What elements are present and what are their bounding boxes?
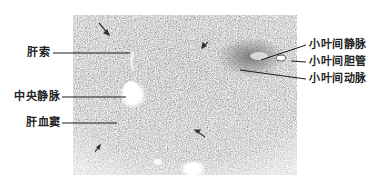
label-interlobular-vein: 小叶间静脉 bbox=[309, 39, 367, 51]
label-interlobular-bile-duct: 小叶间胆管 bbox=[309, 56, 367, 68]
label-interlobular-artery: 小叶间动脉 bbox=[309, 73, 367, 85]
label-central-vein: 中央静脉 bbox=[14, 91, 60, 103]
tissue-texture bbox=[73, 15, 297, 175]
label-hepatic-sinusoid: 肝血窦 bbox=[26, 117, 61, 129]
liver-histology-figure: 肝索 中央静脉 肝血窦 小叶间静脉 小叶间胆管 小叶间动脉 bbox=[0, 0, 375, 190]
label-hepatic-cord: 肝索 bbox=[27, 47, 50, 59]
micrograph-photo bbox=[73, 15, 297, 175]
